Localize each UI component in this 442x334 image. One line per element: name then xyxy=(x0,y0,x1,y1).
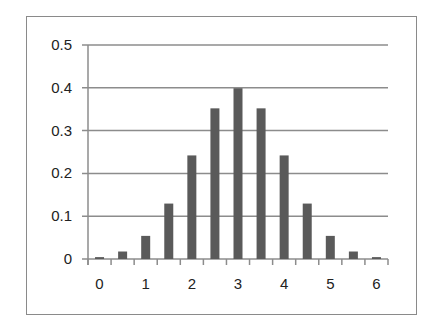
x-tick-label: 6 xyxy=(372,275,380,292)
x-tick-label: 1 xyxy=(142,275,150,292)
y-tick-label: 0.1 xyxy=(51,207,72,224)
x-tick-label: 3 xyxy=(234,275,242,292)
y-tick-label: 0.3 xyxy=(51,122,72,139)
x-tick-label: 0 xyxy=(95,275,103,292)
y-tick-label: 0 xyxy=(64,250,72,267)
bar xyxy=(210,108,219,259)
bar xyxy=(372,257,381,259)
bar xyxy=(280,155,289,259)
x-tick-label: 4 xyxy=(280,275,288,292)
x-tick-label: 5 xyxy=(326,275,334,292)
bar xyxy=(141,236,150,259)
bar xyxy=(164,204,173,259)
y-tick-label: 0.5 xyxy=(51,36,72,53)
x-tick-label: 2 xyxy=(188,275,196,292)
y-tick-label: 0.4 xyxy=(51,79,72,96)
bar xyxy=(326,236,335,259)
y-tick-label: 0.2 xyxy=(51,164,72,181)
bar xyxy=(95,257,104,259)
bar xyxy=(118,252,127,259)
bar-chart: 00.10.20.30.40.50123456 xyxy=(0,0,442,334)
bar xyxy=(349,252,358,259)
bar xyxy=(303,204,312,259)
bar xyxy=(187,155,196,259)
bar xyxy=(234,88,243,259)
bar xyxy=(257,108,266,259)
